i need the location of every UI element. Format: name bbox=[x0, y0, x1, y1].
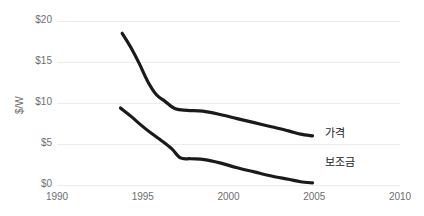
y-tick-label-5: $5 bbox=[41, 137, 52, 148]
chart-plot-area bbox=[0, 0, 424, 216]
series-line-1 bbox=[120, 108, 312, 183]
series-label-1: 보조금 bbox=[325, 153, 355, 169]
x-tick-label-1990: 1990 bbox=[32, 191, 82, 202]
x-tick-label-2000: 2000 bbox=[204, 191, 254, 202]
series-line-0 bbox=[122, 33, 312, 136]
x-tick-label-1995: 1995 bbox=[118, 191, 168, 202]
series-label-0: 가격 bbox=[325, 124, 345, 140]
line-chart: $0$5$10$15$20 19901995200020052010 가격보조금… bbox=[0, 0, 424, 216]
y-tick-label-20: $20 bbox=[35, 14, 52, 25]
y-axis-title: $/W bbox=[14, 96, 25, 114]
y-tick-label-0: $0 bbox=[41, 178, 52, 189]
y-tick-label-15: $15 bbox=[35, 55, 52, 66]
x-tick-label-2010: 2010 bbox=[375, 191, 424, 202]
y-tick-label-10: $10 bbox=[35, 96, 52, 107]
x-tick-label-2005: 2005 bbox=[289, 191, 339, 202]
